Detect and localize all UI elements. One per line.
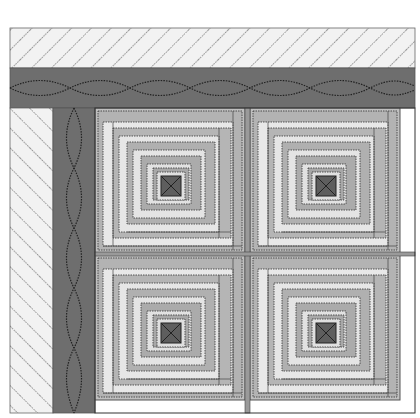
quilt-illustration [0,0,420,418]
outer-border-top [10,28,415,68]
block-bottom-left [95,255,245,400]
block-top-right [250,108,400,253]
outer-border-left [10,108,53,413]
block-bottom-right [250,255,400,400]
inner-border-left [53,108,95,413]
block-top-left [95,108,245,253]
quilt-svg [0,0,420,418]
